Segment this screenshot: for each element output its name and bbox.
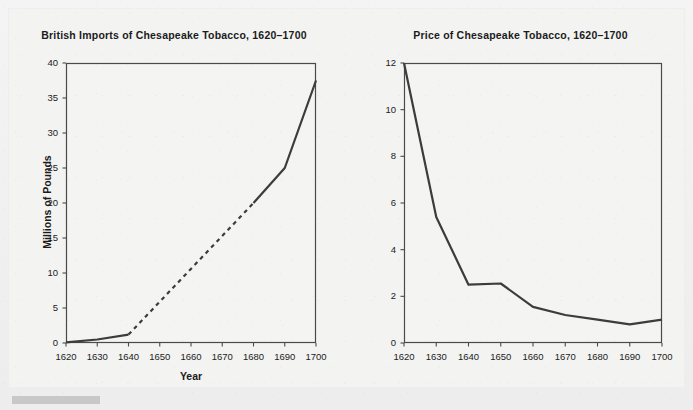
y-tick-label: 15: [36, 232, 58, 243]
page-canvas: British Imports of Chesapeake Tobacco, 1…: [0, 0, 693, 410]
x-tick-label: 1620: [387, 351, 421, 362]
x-tick-label: 1690: [613, 351, 647, 362]
y-tick-label: 10: [36, 267, 58, 278]
y-tick-label: 0: [36, 337, 58, 348]
x-tick-label: 1670: [548, 351, 582, 362]
y-tick-label: 12: [374, 57, 396, 68]
x-tick-label: 1620: [49, 351, 83, 362]
y-tick-label: 20: [36, 197, 58, 208]
y-tick-label: 40: [36, 57, 58, 68]
x-tick-label: 1660: [174, 351, 208, 362]
x-tick-label: 1650: [143, 351, 177, 362]
x-tick-label: 1670: [205, 351, 239, 362]
x-tick-label: 1630: [80, 351, 114, 362]
x-tick-label: 1640: [452, 351, 486, 362]
x-tick-label: 1630: [419, 351, 453, 362]
x-tick-label: 1680: [581, 351, 615, 362]
plot-background: [404, 63, 662, 343]
x-tick-label: 1650: [484, 351, 518, 362]
y-tick-label: 35: [36, 92, 58, 103]
plot-background: [66, 63, 316, 343]
chart-imports: British Imports of Chesapeake Tobacco, 1…: [0, 0, 348, 392]
y-tick-label: 10: [374, 104, 396, 115]
plot-area-price: [348, 0, 693, 392]
y-tick-label: 8: [374, 150, 396, 161]
x-tick-label: 1700: [299, 351, 333, 362]
y-tick-label: 0: [374, 337, 396, 348]
y-tick-label: 6: [374, 197, 396, 208]
y-tick-label: 5: [36, 302, 58, 313]
y-tick-label: 4: [374, 244, 396, 255]
y-tick-label: 30: [36, 127, 58, 138]
x-tick-label: 1660: [516, 351, 550, 362]
chart-price: Price of Chesapeake Tobacco, 1620–1700 P…: [348, 0, 693, 392]
x-tick-label: 1680: [237, 351, 271, 362]
y-tick-label: 2: [374, 290, 396, 301]
x-tick-label: 1690: [268, 351, 302, 362]
y-tick-label: 25: [36, 162, 58, 173]
x-tick-label: 1640: [112, 351, 146, 362]
x-tick-label: 1700: [645, 351, 679, 362]
scan-artifact-bar: [12, 396, 100, 404]
